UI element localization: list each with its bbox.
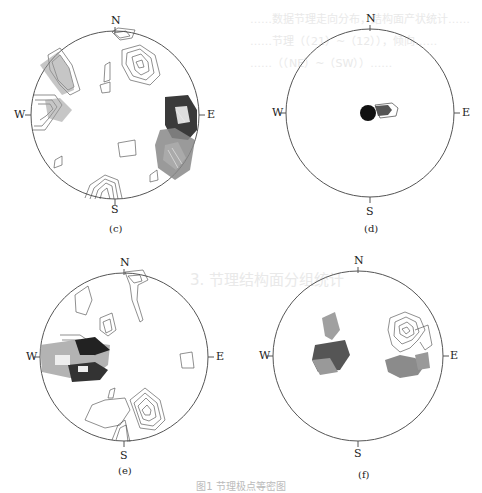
west-label: W <box>272 106 284 119</box>
east-label: E <box>462 106 470 119</box>
panel-label-e: (e) <box>118 465 132 476</box>
panel-label-c: (c) <box>109 223 123 234</box>
stereonet-f: N E S W (f) <box>259 254 458 480</box>
north-label: N <box>120 256 130 269</box>
south-label: S <box>366 205 374 218</box>
north-label: N <box>354 254 364 267</box>
stereonet-c: N E S W <box>14 14 215 234</box>
north-label: N <box>111 14 121 27</box>
stereonet-e: N E S W (e) <box>26 256 224 476</box>
south-label: S <box>354 447 362 460</box>
west-label: W <box>26 350 38 363</box>
south-label: S <box>120 449 128 462</box>
west-label: W <box>14 108 26 121</box>
south-label: S <box>111 203 119 216</box>
figure-caption: 图1 节理极点等密图 <box>0 478 482 493</box>
east-label: E <box>450 349 458 362</box>
east-label: E <box>207 108 215 121</box>
panel-label-d: (d) <box>364 223 378 234</box>
north-label: N <box>366 12 376 25</box>
west-label: W <box>259 349 271 362</box>
east-label: E <box>216 350 224 363</box>
stereonet-d: N E S W (d) <box>272 12 470 234</box>
